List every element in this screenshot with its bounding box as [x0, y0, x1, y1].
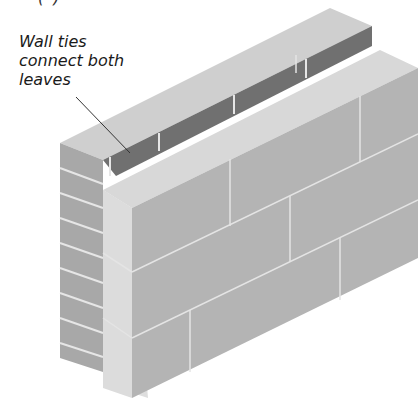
annotation-line-2: connect both	[19, 51, 124, 70]
annotation-line-3: leaves	[19, 70, 124, 89]
brick-leaf-end-face	[60, 143, 103, 372]
wall-ties-annotation: Wall ties connect both leaves	[19, 32, 124, 89]
annotation-line-1: Wall ties	[19, 32, 124, 51]
